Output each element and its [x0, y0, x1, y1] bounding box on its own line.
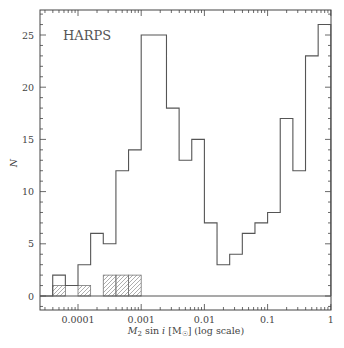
- hatched-bar: [116, 275, 129, 296]
- y-tick-label: 10: [22, 186, 34, 197]
- hatched-bar: [103, 275, 116, 296]
- y-tick-label: 20: [22, 82, 34, 93]
- x-tick-label: 0.0001: [61, 314, 94, 325]
- y-tick-label: 0: [28, 291, 34, 302]
- y-axis-label: N: [8, 158, 19, 168]
- y-tick-label: 15: [22, 134, 34, 145]
- x-tick-label: 0.001: [128, 314, 155, 325]
- x-axis-label: M2 sin i [M☉] (log scale): [127, 325, 244, 338]
- x-tick-label: 0.01: [194, 314, 215, 325]
- y-tick-label: 25: [22, 30, 34, 41]
- hatched-bar: [78, 286, 91, 296]
- y-tick-label: 5: [28, 238, 34, 249]
- x-tick-label: 0.1: [260, 314, 275, 325]
- dataset-annotation: HARPS: [63, 28, 111, 43]
- histogram-outline: [40, 25, 331, 296]
- histogram-chart: 05101520250.00010.0010.010.11 HARPS N M2…: [0, 0, 344, 348]
- plot-area: 05101520250.00010.0010.010.11: [22, 10, 334, 325]
- x-tick-label: 1: [328, 314, 334, 325]
- hatched-bar: [129, 275, 142, 296]
- hatched-bar: [53, 286, 66, 296]
